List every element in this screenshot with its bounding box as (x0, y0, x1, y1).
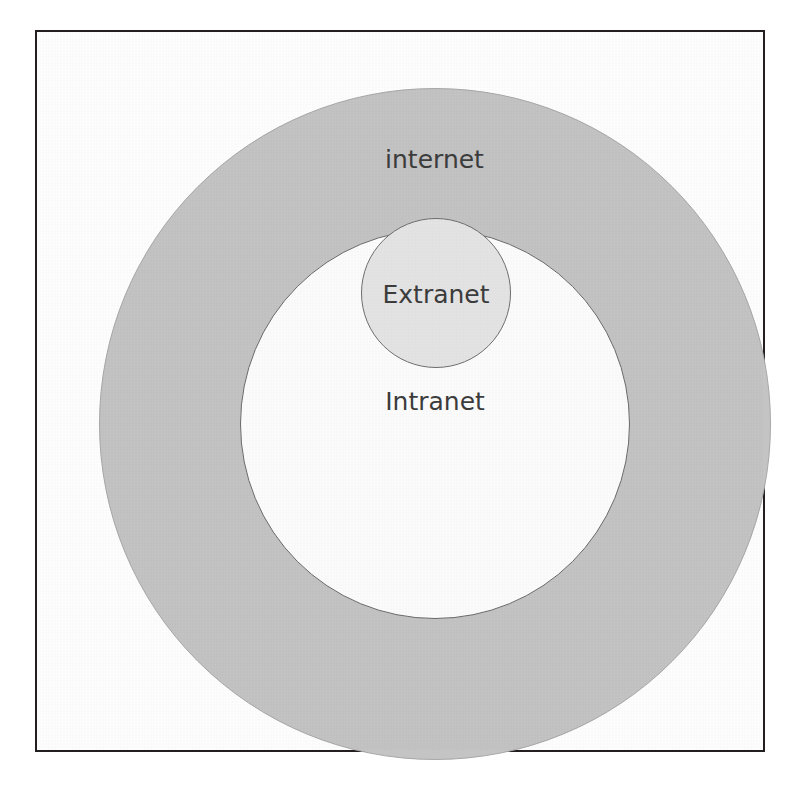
region-intranet-label: Intranet (240, 387, 630, 416)
region-extranet-label: Extranet (361, 280, 511, 309)
region-internet-label: internet (37, 145, 795, 174)
diagram-canvas: internet Extranet Intranet (0, 0, 795, 789)
diagram-frame: internet Extranet Intranet (35, 30, 765, 752)
